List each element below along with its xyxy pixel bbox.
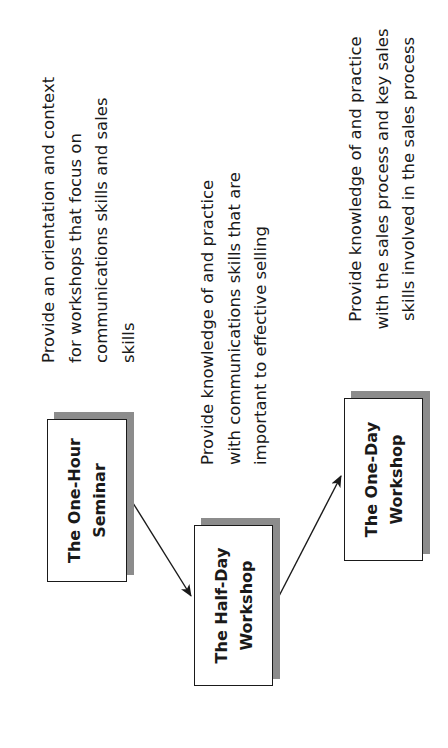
description-line: skills: [116, 77, 143, 363]
arrow-seminar-to-half-day: [133, 503, 191, 596]
node-label-line: The Half-Day: [209, 548, 234, 664]
node-box[interactable]: The One-Day Workshop: [344, 398, 423, 561]
description-line: communications skills and sales: [89, 77, 116, 363]
node-one-day-workshop[interactable]: The One-Day Workshop: [344, 398, 423, 561]
description-half-day-workshop: Provide knowledge of and practice with c…: [195, 172, 275, 465]
description-line: Provide knowledge of and practice: [343, 20, 370, 338]
description-line: important to effective selling: [248, 172, 275, 465]
description-line: Provide knowledge of and practice: [195, 172, 222, 465]
node-label-line: Workshop: [234, 561, 259, 651]
description-line: skills involved in the sales process: [396, 20, 423, 338]
description-line: Provide an orientation and context: [36, 77, 63, 363]
description-one-day-workshop: Provide knowledge of and practice with t…: [343, 20, 423, 338]
node-label-line: Workshop: [384, 435, 409, 525]
node-label-line: Seminar: [87, 463, 112, 538]
node-half-day-workshop[interactable]: The Half-Day Workshop: [194, 525, 273, 686]
arrow-half-day-to-one-day: [278, 476, 341, 598]
diagram-canvas: The One-Hour Seminar The Half-Day Worksh…: [0, 0, 448, 748]
description-line: for workshops that focus on: [63, 77, 90, 363]
node-one-hour-seminar[interactable]: The One-Hour Seminar: [47, 419, 127, 582]
description-line: with the sales process and key sales: [370, 20, 397, 338]
description-line: with communications skills that are: [222, 172, 249, 465]
node-label-line: The One-Hour: [62, 438, 87, 563]
description-one-hour-seminar: Provide an orientation and context for w…: [36, 77, 142, 363]
node-box[interactable]: The One-Hour Seminar: [47, 419, 127, 582]
node-box[interactable]: The Half-Day Workshop: [194, 525, 273, 686]
node-label-line: The One-Day: [359, 422, 384, 537]
